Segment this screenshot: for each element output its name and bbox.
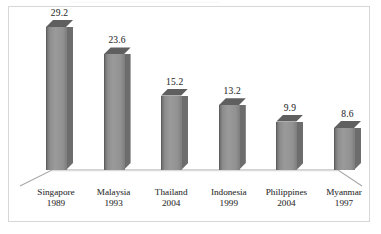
bar-side-face — [354, 128, 361, 170]
bar-top-face — [46, 20, 73, 27]
bar-side-face — [239, 105, 246, 170]
category-label-philippines: Philippines2004 — [254, 187, 318, 210]
bar-value-label: 15.2 — [151, 77, 199, 87]
bar-front-face — [161, 96, 182, 170]
bar-column — [104, 47, 131, 170]
bar-value-label: 13.2 — [208, 86, 256, 96]
bar-side-face — [124, 54, 131, 170]
bar-value-label: 8.6 — [324, 109, 372, 119]
category-year: 1993 — [82, 198, 146, 209]
bar-front-face — [276, 122, 297, 170]
chart-root: 29.2Singapore198923.6Malaysia199315.2Tha… — [0, 0, 381, 234]
category-name: Thailand — [139, 187, 203, 198]
bar-column — [334, 121, 361, 170]
bar-side-face — [181, 96, 188, 170]
category-name: Philippines — [254, 187, 318, 198]
bar-front-face — [46, 27, 67, 170]
category-label-singapore: Singapore1989 — [24, 187, 88, 210]
category-name: Indonesia — [197, 187, 261, 198]
bar-value-label: 29.2 — [36, 8, 84, 18]
bar-top-face — [161, 89, 188, 96]
bar-column — [46, 20, 73, 170]
bar-top-face — [219, 98, 246, 105]
category-year: 1989 — [24, 198, 88, 209]
bar-value-label: 23.6 — [93, 35, 141, 45]
bar-top-face — [334, 121, 361, 128]
category-year: 1999 — [197, 198, 261, 209]
category-label-myanmar: Myanmar1997 — [312, 187, 376, 210]
bar-column — [276, 115, 303, 170]
category-year: 2004 — [139, 198, 203, 209]
bar-philippines[interactable] — [276, 115, 303, 170]
category-name: Myanmar — [312, 187, 376, 198]
bar-value-label: 9.9 — [266, 103, 314, 113]
clipped-line-artifact — [70, 1, 220, 3]
category-label-malaysia: Malaysia1993 — [82, 187, 146, 210]
bar-top-face — [276, 115, 303, 122]
bar-malaysia[interactable] — [104, 47, 131, 170]
bar-side-face — [66, 27, 73, 170]
bar-singapore[interactable] — [46, 20, 73, 170]
plot-area: 29.2Singapore198923.6Malaysia199315.2Tha… — [8, 6, 370, 222]
bar-myanmar[interactable] — [334, 121, 361, 170]
bar-top-face — [104, 47, 131, 54]
category-label-indonesia: Indonesia1999 — [197, 187, 261, 210]
category-name: Malaysia — [82, 187, 146, 198]
bar-front-face — [104, 54, 125, 170]
bar-front-face — [334, 128, 355, 170]
category-year: 2004 — [254, 198, 318, 209]
category-label-thailand: Thailand2004 — [139, 187, 203, 210]
bar-indonesia[interactable] — [219, 98, 246, 170]
bar-column — [161, 89, 188, 170]
bar-thailand[interactable] — [161, 89, 188, 170]
bar-side-face — [296, 122, 303, 170]
category-name: Singapore — [24, 187, 88, 198]
bar-front-face — [219, 105, 240, 170]
category-year: 1997 — [312, 198, 376, 209]
bar-column — [219, 98, 246, 170]
